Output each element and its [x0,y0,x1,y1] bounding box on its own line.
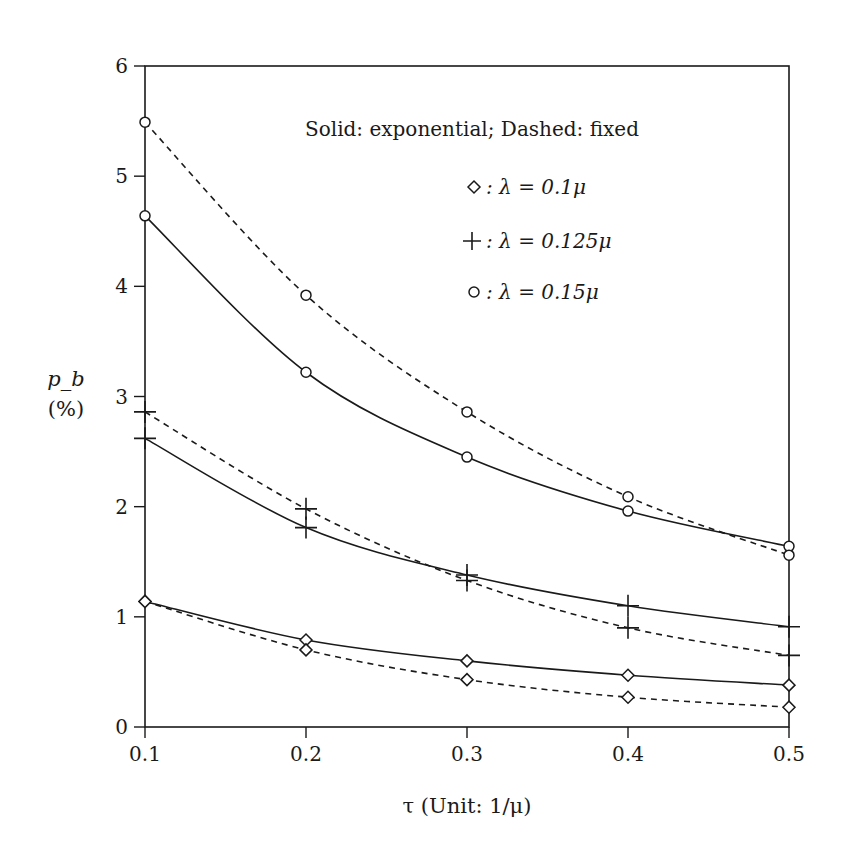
y-tick-label: 3 [115,385,128,409]
y-tick-label: 2 [115,495,128,519]
diamond-marker-icon [783,701,795,713]
y-tick-label: 1 [115,605,128,629]
series-line [145,122,789,555]
y-tick-label: 5 [115,164,128,188]
diamond-marker-icon [139,595,151,607]
x-tick-label: 0.2 [290,742,322,766]
y-axis: 0123456 [115,54,145,739]
y-tick-label: 6 [115,54,128,78]
series-circle-solid [140,211,794,552]
blocking-probability-chart: 0123456 0.10.20.30.40.5 Solid: exponenti… [0,0,848,866]
y-axis-title-symbol: p_b [47,367,84,391]
series-group [134,117,800,713]
circle-marker-icon [784,550,794,560]
plus-marker-icon [617,595,639,617]
plus-marker-icon [778,644,800,666]
diamond-marker-icon [622,691,634,703]
circle-marker-icon [462,407,472,417]
x-tick-label: 0.4 [612,742,644,766]
legend-item-diamond: : λ = 0.1μ [468,175,586,199]
diamond-marker-icon [461,655,473,667]
legend-heading: Solid: exponential; Dashed: fixed [305,117,639,141]
plus-marker-icon [295,517,317,539]
x-axis-title: τ (Unit: 1/μ) [403,794,532,818]
circle-marker-icon [623,492,633,502]
plus-marker-icon [463,232,481,250]
plus-marker-icon [134,427,156,449]
x-tick-label: 0.1 [129,742,161,766]
legend-label: : λ = 0.15μ [486,280,599,304]
plus-marker-icon [134,401,156,423]
legend-item-circle: : λ = 0.15μ [469,280,599,304]
circle-marker-icon [140,117,150,127]
plus-marker-icon [617,617,639,639]
series-line [145,216,789,547]
plus-marker-icon [778,616,800,638]
diamond-marker-icon [622,669,634,681]
legend: Solid: exponential; Dashed: fixed : λ = … [305,117,639,304]
diamond-marker-icon [461,674,473,686]
plus-marker-icon [295,498,317,520]
x-axis: 0.10.20.30.40.5 [129,727,805,766]
series-line [145,438,789,626]
legend-item-plus: : λ = 0.125μ [463,229,612,253]
legend-label: : λ = 0.1μ [486,175,586,199]
circle-marker-icon [462,452,472,462]
y-axis-title-unit: (%) [48,397,84,421]
x-tick-label: 0.5 [773,742,805,766]
plot-frame [145,66,789,727]
y-tick-label: 4 [115,274,128,298]
y-tick-label: 0 [115,715,128,739]
series-plus-dashed [134,401,800,666]
diamond-marker-icon [300,644,312,656]
circle-marker-icon [623,506,633,516]
diamond-marker-icon [783,679,795,691]
diamond-marker-icon [468,181,480,193]
legend-label: : λ = 0.125μ [486,229,612,253]
circle-marker-icon [469,287,479,297]
x-tick-label: 0.3 [451,742,483,766]
circle-marker-icon [301,290,311,300]
series-line [145,412,789,655]
circle-marker-icon [301,367,311,377]
circle-marker-icon [140,211,150,221]
